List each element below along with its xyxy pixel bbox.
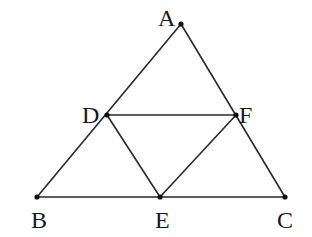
segment-ac [181, 24, 285, 197]
labels-group: A B C D E F [31, 5, 293, 233]
label-e: E [155, 207, 170, 233]
triangle-diagram: A B C D E F [0, 0, 312, 237]
label-a: A [158, 5, 176, 31]
segment-de [107, 115, 160, 197]
segment-ef [160, 115, 236, 197]
point-b [34, 194, 39, 199]
segment-ab [37, 24, 181, 197]
label-f: F [239, 102, 252, 128]
label-c: C [277, 207, 293, 233]
label-b: B [31, 207, 47, 233]
point-f [233, 112, 238, 117]
point-d [104, 112, 109, 117]
point-a [178, 21, 183, 26]
label-d: D [82, 102, 99, 128]
point-c [282, 194, 287, 199]
point-e [157, 194, 162, 199]
